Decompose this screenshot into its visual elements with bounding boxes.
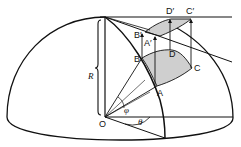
arrowhead-A xyxy=(153,36,157,40)
hemisphere-dome xyxy=(7,17,105,117)
label-D: D xyxy=(169,49,176,59)
base-ellipse xyxy=(7,117,233,140)
label-A: A xyxy=(157,88,163,98)
label-A-prime: A′ xyxy=(144,38,152,48)
base-radius xyxy=(105,117,165,138)
label-B: B xyxy=(134,54,140,64)
label-phi: φ xyxy=(124,105,129,115)
label-O: O xyxy=(99,119,106,129)
label-D-prime: D′ xyxy=(166,6,174,16)
R-brace xyxy=(95,20,101,115)
hemisphere-diagram: R O A B C D A′ B′ C′ D′ φ θ xyxy=(0,0,241,147)
label-theta: θ xyxy=(138,117,143,127)
label-C-prime: C′ xyxy=(186,6,194,16)
label-B-prime: B′ xyxy=(134,30,142,40)
label-C: C xyxy=(194,63,201,73)
label-R: R xyxy=(87,71,94,81)
top-to-patch-line xyxy=(105,17,150,30)
sphere-patch xyxy=(142,50,192,86)
